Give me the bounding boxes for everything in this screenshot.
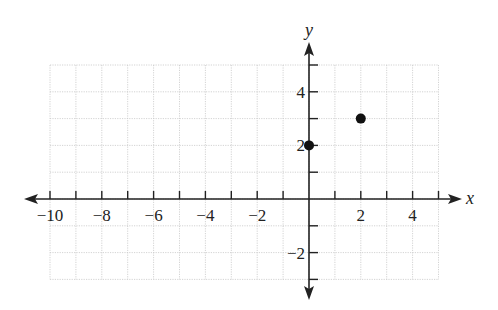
coordinate-plane: −10−8−6−4−224−224 x y bbox=[0, 0, 498, 310]
x-axis-label: x bbox=[465, 188, 474, 208]
x-tick-label: −4 bbox=[196, 206, 215, 225]
data-point bbox=[356, 114, 366, 124]
x-tick-label: −10 bbox=[37, 206, 64, 225]
axes bbox=[24, 42, 462, 300]
x-tick-label: −2 bbox=[248, 206, 266, 225]
y-tick-label: −2 bbox=[287, 244, 305, 263]
x-tick-label: 4 bbox=[408, 206, 417, 225]
y-tick-label: 4 bbox=[297, 83, 306, 102]
x-tick-label: −6 bbox=[145, 206, 163, 225]
data-point bbox=[304, 140, 314, 150]
x-tick-label: −8 bbox=[93, 206, 111, 225]
y-tick-label: 2 bbox=[297, 136, 306, 155]
y-axis-label: y bbox=[303, 20, 313, 40]
tick-labels: −10−8−6−4−224−224 bbox=[37, 83, 418, 263]
x-tick-label: 2 bbox=[357, 206, 366, 225]
grid bbox=[50, 65, 439, 279]
